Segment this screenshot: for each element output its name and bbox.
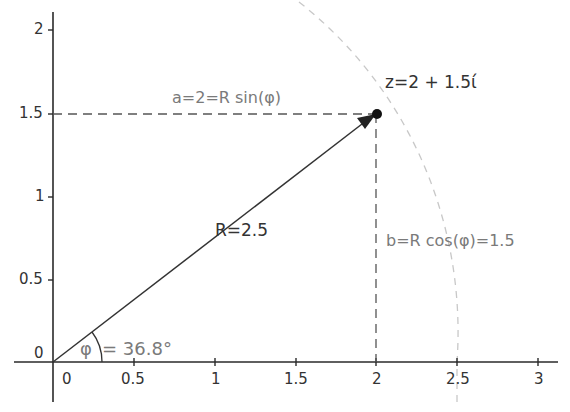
- x-tick-label: 2.5: [446, 372, 470, 387]
- vector-label: R=2.5: [215, 222, 268, 239]
- angle-value-label: = 36.8°: [102, 340, 172, 358]
- point-z-label: z=2 + 1.5ί: [385, 74, 477, 91]
- x-tick-label: 1.5: [284, 372, 308, 387]
- x-tick-label: 0: [62, 372, 72, 387]
- y-tick-label: 2: [34, 22, 44, 37]
- y-tick-label: 1.5: [19, 106, 43, 121]
- circle-arc: [299, 2, 458, 405]
- x-tick-label: 2: [372, 372, 382, 387]
- y-tick-label: 0.5: [19, 272, 43, 287]
- x-tick-label: 3: [534, 372, 544, 387]
- x-tick-label: 0.5: [121, 372, 145, 387]
- angle-symbol: φ: [80, 340, 92, 358]
- y-tick-label: 0: [34, 346, 44, 361]
- x-tick-label: 1: [211, 372, 221, 387]
- vector-r: [53, 124, 362, 362]
- horizontal-projection-label: a=2=R sin(φ): [172, 90, 281, 106]
- vertical-projection-label: b=R cos(φ)=1.5: [386, 233, 515, 249]
- angle-arc: [92, 332, 102, 362]
- y-tick-label: 1: [35, 189, 45, 204]
- point-z: [372, 109, 382, 119]
